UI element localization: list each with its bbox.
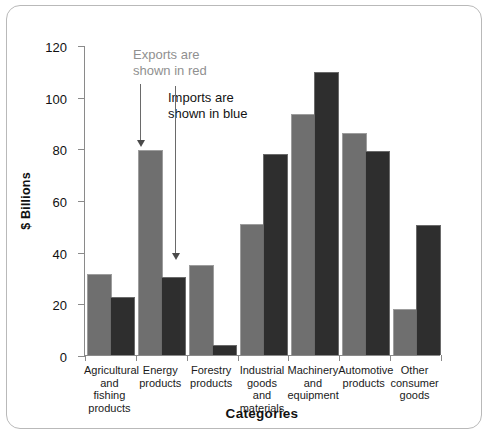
- bar-exports[interactable]: [189, 265, 214, 355]
- x-axis-tick: [288, 355, 289, 361]
- x-axis-tick: [339, 355, 340, 361]
- bar-group: [87, 46, 133, 355]
- y-axis-tick: 120: [78, 46, 85, 47]
- category-label-line: Machinery: [287, 364, 338, 377]
- bar-imports[interactable]: [314, 72, 339, 355]
- y-axis-tick: 60: [78, 201, 85, 202]
- category-label: Forestryproducts: [186, 364, 237, 389]
- x-axis-tick: [187, 355, 188, 361]
- category-label-line: products: [338, 377, 389, 390]
- annotation-exports: Exports are shown in red: [133, 47, 207, 79]
- category-label: Otherconsumergoods: [389, 364, 440, 402]
- y-axis-tick-label: 0: [60, 350, 67, 365]
- category-label-line: products: [135, 377, 186, 390]
- category-label-line: goods: [389, 389, 440, 402]
- category-label-line: goods and: [237, 377, 288, 402]
- bar-group: [342, 46, 388, 355]
- category-label-line: Energy: [135, 364, 186, 377]
- bar-group: [393, 46, 439, 355]
- bar-exports[interactable]: [87, 274, 112, 355]
- category-label-line: equipment: [287, 389, 338, 402]
- x-axis-tick: [390, 355, 391, 361]
- bar-exports[interactable]: [393, 309, 418, 355]
- bar-exports[interactable]: [342, 133, 367, 355]
- bar-imports[interactable]: [416, 225, 441, 355]
- bar-imports[interactable]: [365, 151, 390, 355]
- y-axis-tick: 80: [78, 149, 85, 150]
- category-label: Energyproducts: [135, 364, 186, 389]
- y-axis-tick-label: 120: [45, 40, 67, 55]
- annotation-imports-arrow-line: [175, 86, 176, 254]
- category-label: Automotiveproducts: [338, 364, 389, 389]
- y-axis-title-text: $ Billions: [19, 172, 33, 230]
- bar-imports[interactable]: [263, 154, 288, 355]
- x-axis-tick: [441, 355, 442, 361]
- bar-exports[interactable]: [291, 114, 316, 355]
- category-label-line: products: [186, 377, 237, 390]
- y-axis-tick: 40: [78, 253, 85, 254]
- category-label-line: Industrial: [237, 364, 288, 377]
- bar-exports[interactable]: [138, 150, 163, 355]
- bar-imports[interactable]: [161, 277, 186, 356]
- x-axis-tick: [238, 355, 239, 361]
- category-label-line: Automotive: [338, 364, 389, 377]
- category-label-line: Agricultural: [84, 364, 135, 377]
- y-axis-tick-label: 80: [53, 143, 67, 158]
- y-axis-tick: 100: [78, 98, 85, 99]
- x-axis-tick: [85, 355, 86, 361]
- y-axis-tick-label: 60: [53, 195, 67, 210]
- annotation-imports-arrow-head: [172, 253, 180, 260]
- category-label-line: Forestry: [186, 364, 237, 377]
- category-label-line: and: [287, 377, 338, 390]
- bar-group: [291, 46, 337, 355]
- y-axis-title: $ Billions: [18, 46, 34, 356]
- category-label-line: consumer: [389, 377, 440, 390]
- category-label-line: and fishing: [84, 377, 135, 402]
- y-axis-tick-label: 20: [53, 298, 67, 313]
- annotation-exports-arrow-line: [140, 84, 141, 141]
- category-label-line: Other: [389, 364, 440, 377]
- plot-area: 020406080100120: [84, 46, 440, 356]
- bar-exports[interactable]: [240, 224, 265, 355]
- annotation-imports: Imports are shown in blue: [168, 90, 248, 122]
- y-axis-tick-label: 100: [45, 91, 67, 106]
- annotation-exports-arrow-head: [137, 140, 145, 147]
- y-axis-tick: 0: [78, 356, 85, 357]
- chart-figure: $ Billions 020406080100120 Agriculturala…: [0, 0, 491, 439]
- bar-imports[interactable]: [110, 297, 135, 355]
- x-axis-tick: [136, 355, 137, 361]
- x-axis-title: Categories: [84, 406, 440, 421]
- y-axis-tick-label: 40: [53, 246, 67, 261]
- y-axis-tick: 20: [78, 304, 85, 305]
- category-label: Machineryandequipment: [287, 364, 338, 402]
- bar-imports[interactable]: [212, 345, 237, 355]
